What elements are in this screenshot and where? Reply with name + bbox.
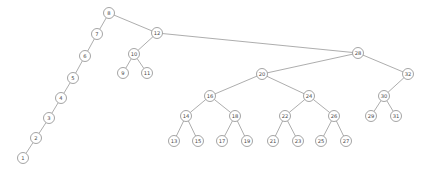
tree-diagram-figure: 1234567891011121314151617181920212223242…: [0, 0, 429, 171]
tree-edge: [289, 100, 305, 113]
tree-node[interactable]: 8: [104, 8, 115, 19]
tree-node[interactable]: 16: [205, 91, 216, 102]
tree-node[interactable]: 7: [92, 29, 103, 40]
tree-node-label: 28: [355, 50, 362, 56]
tree-edge: [26, 143, 33, 154]
tree-edge: [64, 83, 70, 94]
tree-edge: [114, 15, 152, 31]
tree-node[interactable]: 17: [217, 136, 228, 147]
tree-edge: [237, 121, 244, 136]
tree-edge: [52, 103, 58, 114]
tree-edge: [288, 121, 296, 136]
tree-node[interactable]: 27: [341, 136, 352, 147]
tree-edge: [267, 54, 352, 73]
tree-node-label: 8: [107, 10, 110, 16]
tree-node[interactable]: 19: [242, 136, 253, 147]
tree-edge: [138, 37, 153, 51]
tree-node[interactable]: 22: [280, 111, 291, 122]
node-layer: 1234567891011121314151617181920212223242…: [18, 8, 414, 164]
tree-node-label: 7: [95, 31, 98, 37]
tree-edge: [100, 18, 107, 29]
tree-node[interactable]: 6: [80, 51, 91, 62]
tree-node-label: 29: [368, 113, 375, 119]
tree-edge: [39, 123, 46, 134]
tree-edge: [137, 59, 144, 69]
edge-layer: [26, 15, 404, 153]
tree-node[interactable]: 25: [316, 136, 327, 147]
tree-node-label: 12: [154, 30, 161, 36]
tree-node-label: 26: [331, 113, 338, 119]
tree-edge: [267, 76, 304, 93]
tree-node[interactable]: 26: [329, 111, 340, 122]
tree-node[interactable]: 11: [142, 68, 153, 79]
tree-node-label: 16: [207, 93, 214, 99]
tree-node-label: 25: [318, 138, 325, 144]
tree-node-label: 1: [21, 155, 24, 161]
tree-node-label: 17: [219, 138, 226, 144]
tree-node[interactable]: 5: [68, 73, 79, 84]
tree-node-label: 5: [71, 75, 74, 81]
tree-edge: [363, 55, 403, 72]
tree-edge: [324, 121, 332, 136]
tree-node-label: 24: [306, 93, 313, 99]
tree-node[interactable]: 18: [230, 111, 241, 122]
tree-node[interactable]: 32: [403, 69, 414, 80]
tree-node[interactable]: 1: [18, 153, 29, 164]
tree-node-label: 6: [83, 53, 86, 59]
tree-node-label: 22: [282, 113, 289, 119]
tree-node[interactable]: 28: [353, 48, 364, 59]
tree-edge: [388, 78, 404, 93]
tree-node-label: 2: [34, 135, 37, 141]
tree-node-label: 21: [270, 138, 277, 144]
tree-edge: [176, 121, 183, 136]
tree-node[interactable]: 12: [152, 28, 163, 39]
tree-node-label: 13: [171, 138, 178, 144]
tree-edge: [225, 121, 233, 136]
tree-node-label: 32: [405, 71, 412, 77]
tree-node[interactable]: 30: [379, 91, 390, 102]
tree-graph-canvas: 1234567891011121314151617181920212223242…: [0, 0, 429, 171]
tree-node-label: 20: [259, 71, 266, 77]
tree-edge: [313, 99, 329, 112]
tree-node[interactable]: 20: [257, 69, 268, 80]
tree-edge: [374, 101, 381, 112]
tree-node[interactable]: 31: [391, 111, 402, 122]
tree-node-label: 14: [183, 113, 190, 119]
tree-node[interactable]: 4: [56, 93, 67, 104]
tree-node-label: 23: [295, 138, 302, 144]
tree-node[interactable]: 24: [304, 91, 315, 102]
tree-node[interactable]: 3: [44, 113, 55, 124]
tree-node-label: 27: [343, 138, 350, 144]
tree-edge: [162, 34, 352, 53]
tree-node-label: 9: [121, 70, 124, 76]
tree-edge: [214, 99, 230, 112]
tree-edge: [215, 76, 257, 94]
tree-edge: [88, 39, 95, 51]
tree-node-label: 31: [393, 113, 400, 119]
tree-edge: [76, 61, 83, 73]
tree-edge: [387, 101, 393, 112]
tree-node-label: 15: [195, 138, 202, 144]
tree-node[interactable]: 13: [169, 136, 180, 147]
tree-node[interactable]: 23: [293, 136, 304, 147]
tree-node[interactable]: 14: [181, 111, 192, 122]
tree-node[interactable]: 9: [118, 68, 129, 79]
tree-edge: [336, 121, 343, 136]
tree-edge: [126, 59, 131, 68]
tree-node[interactable]: 10: [129, 49, 140, 60]
tree-node-label: 3: [47, 115, 50, 121]
tree-edge: [275, 121, 282, 136]
tree-node[interactable]: 21: [268, 136, 279, 147]
tree-node-label: 30: [381, 93, 388, 99]
tree-node[interactable]: 2: [31, 133, 42, 144]
tree-node-label: 18: [232, 113, 239, 119]
tree-node-label: 19: [244, 138, 251, 144]
tree-node-label: 11: [144, 70, 151, 76]
tree-node[interactable]: 15: [193, 136, 204, 147]
tree-node-label: 10: [131, 51, 138, 57]
tree-edge: [190, 100, 206, 113]
tree-edge: [188, 121, 195, 136]
tree-node[interactable]: 29: [366, 111, 377, 122]
